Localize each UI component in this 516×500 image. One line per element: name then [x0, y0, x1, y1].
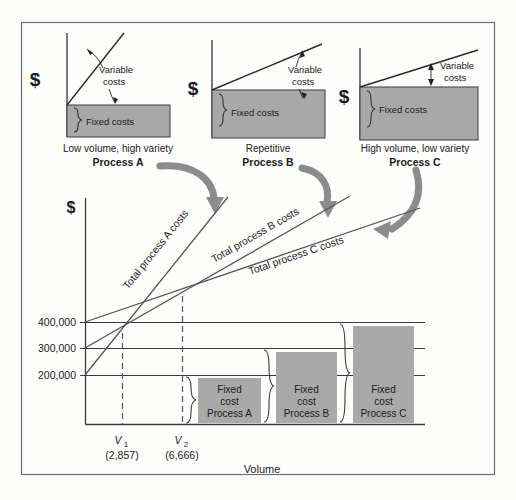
variable-costs-label-c-line2: costs [444, 72, 466, 83]
fixed-cost-box-process-c: Fixed cost Process C [353, 326, 414, 423]
fixed-cost-box-process-a: Fixed cost Process A [198, 378, 261, 423]
fixed-cost-box-c-line3: Process C [360, 408, 406, 419]
fixed-costs-label-b: Fixed costs [231, 107, 279, 118]
fixed-costs-label-a: Fixed costs [86, 116, 134, 127]
variable-costs-label-b-line1: Variable [288, 64, 322, 75]
ytick-label-200000: 200,000 [38, 369, 76, 381]
crossover-v1-subscript: 1 [124, 440, 129, 449]
fixed-cost-box-process-b: Fixed cost Process B [276, 352, 337, 423]
crossover-v2-symbol: V [174, 434, 182, 446]
dollar-symbol-a: $ [30, 69, 41, 90]
process-label-b: Process B [242, 156, 294, 168]
ytick-label-300000: 300,000 [38, 342, 76, 354]
variable-costs-label-a-line1: Variable [99, 64, 133, 75]
process-label-a: Process A [93, 156, 144, 168]
x-axis-title: Volume [244, 463, 281, 475]
ytick-label-400000: 400,000 [38, 316, 76, 328]
variable-costs-label-c-line1: Variable [440, 60, 474, 71]
main-dollar-symbol: $ [67, 199, 76, 216]
fixed-cost-box-b-line1: Fixed [294, 384, 318, 395]
crossover-v2-value: (6,666) [165, 449, 198, 461]
fixed-cost-box-b-line3: Process B [284, 408, 330, 419]
fixed-cost-box-c-line2: cost [374, 396, 393, 407]
crossover-v1-value: (2,857) [105, 449, 138, 461]
dollar-symbol-c: $ [339, 86, 350, 107]
crossover-chart-figure: $ Fixed costs Variable costs Low volume,… [0, 0, 516, 500]
caption-c: High volume, low variety [361, 143, 469, 154]
process-label-c: Process C [389, 156, 441, 168]
fixed-cost-box-c-line1: Fixed [371, 384, 395, 395]
dollar-symbol-b: $ [188, 78, 199, 99]
fixed-costs-label-c: Fixed costs [379, 104, 427, 115]
figure-container: $ Fixed costs Variable costs Low volume,… [0, 0, 516, 500]
fixed-cost-box-b-line2: cost [297, 396, 316, 407]
fixed-cost-box-a-line1: Fixed [217, 384, 241, 395]
variable-costs-label-b-line2: costs [292, 76, 314, 87]
fixed-cost-box-a-line3: Process A [207, 408, 252, 419]
caption-b: Repetitive [246, 143, 291, 154]
variable-costs-label-a-line2: costs [103, 76, 125, 87]
crossover-v1-symbol: V [114, 434, 122, 446]
fixed-cost-box-a-line2: cost [220, 396, 239, 407]
caption-a: Low volume, high variety [63, 143, 173, 154]
crossover-v2-subscript: 2 [184, 440, 189, 449]
